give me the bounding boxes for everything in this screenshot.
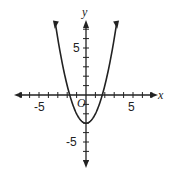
y-tick-label-5: 5 (73, 41, 80, 55)
x-axis-label: x (157, 88, 164, 102)
y-axis-bottom-arrow-icon (83, 160, 89, 168)
x-axis-right-arrow-icon (150, 92, 158, 98)
graph: x y O -5 5 5 -5 (0, 0, 172, 174)
origin-label: O (77, 96, 86, 110)
y-axis-label: y (81, 5, 88, 19)
x-axis-left-arrow-icon (14, 92, 22, 98)
y-axis-top-arrow-icon (83, 20, 89, 28)
y-tick-label-neg5: -5 (66, 135, 77, 149)
x-tick-label-5: 5 (128, 100, 135, 114)
x-tick-label-neg5: -5 (34, 100, 45, 114)
